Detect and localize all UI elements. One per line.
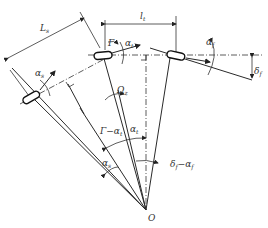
arc-alpha-t-top — [120, 42, 124, 64]
line-to-right-tracker — [146, 58, 170, 210]
dimension-lt: lt — [105, 11, 176, 52]
svg-text:lt: lt — [140, 11, 146, 22]
angle-diagram: Ls lt Γ αt αf δf αs Ωz Γ−αt αt αs δf−αf … — [0, 0, 268, 228]
arc-delta-alpha — [136, 160, 158, 163]
dimension-ls: Ls — [8, 12, 100, 100]
svg-text:αt: αt — [125, 38, 134, 49]
svg-text:δf−αf: δf−αf — [170, 159, 195, 171]
label-origin: O — [148, 213, 156, 223]
svg-text:αs: αs — [102, 158, 111, 169]
right-angle-marker-top — [141, 55, 146, 60]
svg-text:Γ−αt: Γ−αt — [99, 126, 123, 137]
svg-text:δf: δf — [254, 66, 263, 78]
svg-text:αs: αs — [35, 68, 44, 79]
right-angle-marker-left — [66, 82, 74, 87]
svg-text:αt: αt — [130, 124, 139, 135]
line-to-left-tracker — [34, 99, 146, 210]
svg-text:Ωz: Ωz — [116, 85, 128, 96]
svg-text:αf: αf — [206, 37, 216, 49]
label-gamma: Γ — [107, 38, 115, 48]
perpendicular-line — [68, 84, 84, 114]
svg-text:Ls: Ls — [39, 23, 49, 34]
right-tracker-tilt-line — [150, 48, 252, 80]
